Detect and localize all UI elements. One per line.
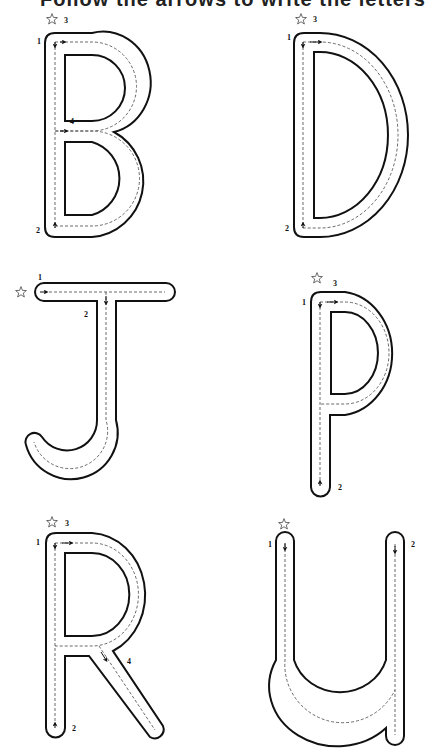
start-star-icon: [279, 519, 290, 529]
step-label: 1: [36, 538, 40, 547]
start-star-icon: [312, 273, 323, 283]
letter-j-outline: [25, 283, 175, 479]
letter-b: 3 1 4 2: [36, 14, 151, 237]
step-label: 2: [338, 483, 342, 492]
step-label: 3: [65, 519, 69, 528]
letter-j: 1 2: [16, 273, 175, 479]
letter-j-guide: [34, 292, 165, 469]
letter-b-upper-counter: [65, 55, 125, 121]
letter-d-outline: [294, 33, 408, 237]
step-label: 1: [37, 37, 41, 46]
letter-u-outline: [269, 532, 404, 746]
letter-r: 3 1 4 2: [36, 517, 164, 739]
letter-r-outline: [46, 533, 164, 738]
letter-p-counter: [331, 312, 378, 394]
step-label: 3: [333, 279, 337, 288]
letter-d-guide: [303, 42, 398, 228]
step-label: 3: [313, 15, 317, 24]
start-star-icon: [47, 14, 58, 24]
step-label: 1: [302, 298, 306, 307]
letter-p: 3 1 2: [302, 273, 392, 497]
start-star-icon: [296, 14, 307, 24]
letter-d: 3 1 2: [285, 14, 408, 237]
step-label: 1: [287, 33, 291, 42]
letter-b-outline: [45, 32, 151, 237]
letter-u-guide: [285, 544, 395, 735]
step-label: 1: [38, 273, 42, 282]
letter-b-lower-counter: [65, 142, 119, 215]
letter-b-guide: [55, 42, 140, 228]
step-label: 4: [70, 117, 74, 126]
step-label: 3: [64, 16, 68, 25]
step-label: 2: [72, 724, 76, 733]
step-label: 2: [84, 310, 88, 319]
letter-d-counter: [314, 52, 388, 218]
start-star-icon: [47, 517, 58, 527]
start-star-icon: [16, 287, 27, 297]
letter-tracing-sheet: 3 1 4 2 3 1 2 1 2 3 1 2: [0, 0, 439, 752]
step-label: 4: [127, 657, 131, 666]
step-label: 2: [36, 226, 40, 235]
letter-r-counter: [65, 553, 129, 636]
step-label: 2: [411, 540, 415, 549]
step-label: 2: [285, 224, 289, 233]
letter-u: 1 2: [268, 519, 415, 747]
step-label: 1: [268, 540, 272, 549]
